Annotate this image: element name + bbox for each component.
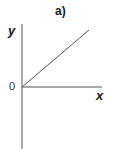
origin-label: 0 — [9, 81, 15, 92]
figure-title: a) — [55, 5, 66, 17]
x-axis-label: x — [96, 89, 103, 102]
y-axis-label: y — [8, 24, 15, 37]
diagram-canvas — [0, 0, 115, 149]
proportional-line — [22, 30, 89, 87]
